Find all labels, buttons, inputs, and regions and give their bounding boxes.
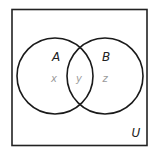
region-z-label: z bbox=[101, 73, 108, 84]
set-a-label: A bbox=[51, 50, 60, 64]
set-b-label: B bbox=[102, 50, 110, 64]
region-y-label: y bbox=[75, 73, 83, 84]
venn-diagram: A B x y z U bbox=[0, 0, 157, 156]
universe-label: U bbox=[132, 126, 141, 140]
region-x-label: x bbox=[50, 73, 57, 84]
